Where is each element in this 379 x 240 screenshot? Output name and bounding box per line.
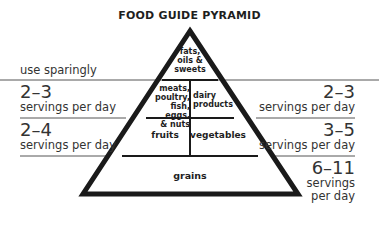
servings-count: 2–3 — [20, 82, 116, 101]
servings-count: 6–11 — [307, 158, 355, 177]
segment-line: dairy — [193, 91, 233, 100]
segment-line: meats, — [150, 84, 190, 93]
guide-use-sparingly: use sparingly — [20, 64, 97, 77]
servings-protein: 2–3 servings per day — [20, 82, 116, 114]
segment-line: sweets — [172, 65, 208, 74]
servings-count: 2–3 — [259, 82, 355, 101]
segment-line: fats, — [172, 47, 208, 56]
servings-vegetables: 3–5 servings per day — [259, 120, 355, 152]
segment-vegetables: vegetables — [190, 131, 246, 140]
servings-fruits: 2–4 servings per day — [20, 120, 116, 152]
segment-meats: meats, poultry, fish, eggs, & nuts — [150, 84, 190, 129]
servings-count: 3–5 — [259, 120, 355, 139]
segment-fruits: fruits — [140, 131, 190, 140]
segment-grains: grains — [150, 171, 230, 180]
servings-unit: servings per day — [259, 139, 355, 152]
segment-line: fish, eggs, — [150, 102, 190, 120]
servings-unit: servings per day — [20, 139, 116, 152]
segment-line: poultry, — [150, 93, 190, 102]
segment-line: products — [193, 100, 233, 109]
servings-dairy: 2–3 servings per day — [259, 82, 355, 114]
servings-unit: per day — [307, 190, 355, 203]
servings-unit: servings per day — [259, 101, 355, 114]
segment-line: oils & — [172, 56, 208, 65]
segment-dairy: dairy products — [193, 91, 233, 109]
segment-line: & nuts — [150, 120, 190, 129]
servings-grains: 6–11 servings per day — [307, 158, 355, 203]
segment-fats-oils-sweets: fats, oils & sweets — [172, 47, 208, 74]
servings-unit: servings per day — [20, 101, 116, 114]
servings-count: 2–4 — [20, 120, 116, 139]
